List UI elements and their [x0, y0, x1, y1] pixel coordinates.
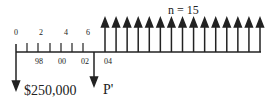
- outflow-amount-label: $250,000: [24, 84, 77, 98]
- tick-label-6: 6: [86, 29, 90, 37]
- year-label-04: 04: [104, 58, 112, 66]
- present-value-label: P': [103, 83, 113, 97]
- year-label-98: 98: [35, 58, 43, 66]
- year-label-00: 00: [58, 58, 66, 66]
- inflow-arrows: [102, 18, 264, 52]
- year-label-02: 02: [81, 58, 89, 66]
- period-count-label: n = 15: [168, 3, 199, 17]
- tick-marks: [27, 43, 83, 52]
- tick-label-4: 4: [64, 29, 68, 37]
- tick-label-0: 0: [14, 29, 18, 37]
- tick-label-2: 2: [39, 29, 43, 37]
